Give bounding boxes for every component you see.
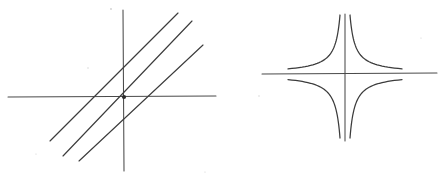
origin-marker-left: [122, 95, 126, 99]
paper-speck: [110, 8, 112, 10]
paper-speck: [258, 95, 259, 96]
paper-speck: [87, 67, 88, 68]
figure-canvas: [0, 0, 438, 180]
paper-speck: [35, 153, 36, 154]
paper-speck: [420, 37, 421, 38]
paper-speck: [204, 171, 205, 172]
